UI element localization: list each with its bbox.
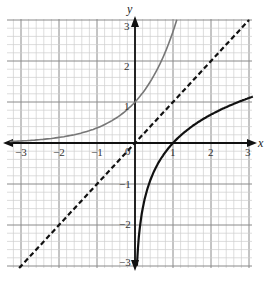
ln-curve xyxy=(137,97,253,266)
y-tick-label: −3 xyxy=(119,256,131,268)
x-tick-label: 1 xyxy=(170,146,176,158)
y-tick-label: 3 xyxy=(124,20,130,32)
x-axis-label: x xyxy=(257,136,264,150)
y-tick-label: 1 xyxy=(124,100,130,112)
identity-line-dashed xyxy=(19,20,249,268)
exp-curve xyxy=(10,20,177,142)
x-axis-left-arrow-icon xyxy=(3,139,13,147)
x-tick-label: −1 xyxy=(91,146,103,158)
y-axis-label: y xyxy=(126,2,133,16)
x-tick-label: −3 xyxy=(15,146,27,158)
origin-label: 0 xyxy=(125,145,131,157)
y-tick-label: −2 xyxy=(119,218,131,230)
x-tick-label: 3 xyxy=(245,146,251,158)
y-tick-label: −1 xyxy=(119,178,131,190)
x-tick-label: −2 xyxy=(53,146,65,158)
curves xyxy=(10,20,253,268)
y-tick-label: 2 xyxy=(124,60,130,72)
y-axis-up-arrow-icon xyxy=(131,16,139,27)
function-graph: x y 0 −3 −2 −1 1 2 3 3 2 1 −1 −2 −3 xyxy=(0,0,269,281)
x-tick-label: 2 xyxy=(208,146,214,158)
